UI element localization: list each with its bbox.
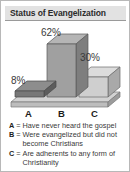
- bar-value-label-a: 8%: [11, 75, 25, 86]
- bar-value-label-c: 30%: [80, 52, 100, 63]
- legend-key-a: A: [9, 121, 16, 130]
- bar-chart-svg: [5, 22, 126, 119]
- axis-tick-a: A: [25, 108, 32, 119]
- axis-tick-c: C: [91, 108, 98, 119]
- legend-text-b: Were evangelized but did not become Chri…: [23, 130, 126, 148]
- chart-figure: Status of Evangelization: [0, 0, 130, 172]
- legend-item-c: C = Are adherents to any form of Christi…: [9, 149, 126, 167]
- chart-plot-area: 8% 62% 30% A B C: [5, 22, 126, 119]
- axis-tick-b: B: [58, 108, 65, 119]
- page-title: Status of Evangelization: [10, 8, 106, 18]
- bar-value-label-b: 62%: [41, 27, 61, 38]
- legend-item-a: A = Have never heard the gospel: [9, 121, 126, 130]
- chart-legend: A = Have never heard the gospel B = Were…: [9, 121, 126, 167]
- legend-key-b: B: [9, 130, 16, 139]
- legend-key-c: C: [9, 149, 16, 158]
- legend-text-c: Are adherents to any form of Christianit…: [23, 149, 126, 167]
- legend-item-b: B = Were evangelized but did not become …: [9, 130, 126, 148]
- legend-text-a: Have never heard the gospel: [23, 121, 126, 130]
